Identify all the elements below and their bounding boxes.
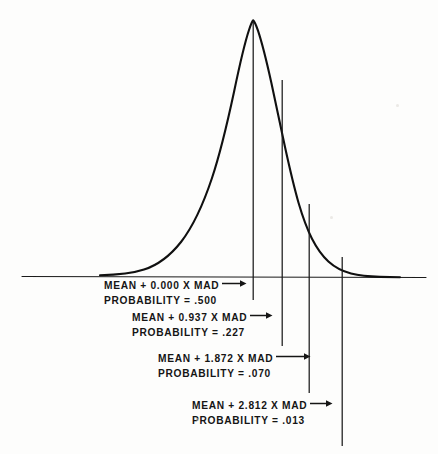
- scan-speck: [330, 216, 333, 219]
- annotation-mean-0-000: MEAN + 0.000 X MAD PROBABILITY = .500: [104, 279, 248, 308]
- annotation-probability-text: PROBABILITY = .013: [192, 414, 334, 429]
- arrow-right-icon: [276, 351, 312, 366]
- normal-distribution-chart: [0, 0, 438, 454]
- annotation-mean-1-872: MEAN + 1.872 X MAD PROBABILITY = .070: [158, 352, 312, 381]
- annotation-label-text: MEAN + 2.812 X MAD: [192, 399, 307, 414]
- scan-speck: [396, 104, 399, 107]
- annotation-line-primary: MEAN + 1.872 X MAD: [158, 352, 312, 367]
- annotation-label-text: MEAN + 0.937 X MAD: [132, 311, 247, 326]
- annotation-label-text: MEAN + 1.872 X MAD: [158, 352, 273, 367]
- normal-distribution-curve: [100, 20, 400, 277]
- arrow-right-icon: [250, 310, 274, 325]
- annotation-line-primary: MEAN + 0.000 X MAD: [104, 279, 248, 294]
- annotation-label-text: MEAN + 0.000 X MAD: [104, 279, 219, 294]
- annotation-line-primary: MEAN + 0.937 X MAD: [132, 311, 274, 326]
- annotation-probability-text: PROBABILITY = .500: [104, 294, 248, 309]
- arrow-right-icon: [310, 398, 334, 413]
- annotation-mean-2-812: MEAN + 2.812 X MAD PROBABILITY = .013: [192, 399, 334, 428]
- annotation-probability-text: PROBABILITY = .227: [132, 326, 274, 341]
- arrow-right-icon: [222, 278, 248, 293]
- annotation-line-primary: MEAN + 2.812 X MAD: [192, 399, 334, 414]
- figure-root: MEAN + 0.000 X MAD PROBABILITY = .500 ME…: [0, 0, 438, 454]
- scan-speck: [196, 418, 199, 421]
- annotation-mean-0-937: MEAN + 0.937 X MAD PROBABILITY = .227: [132, 311, 274, 340]
- annotation-probability-text: PROBABILITY = .070: [158, 367, 312, 382]
